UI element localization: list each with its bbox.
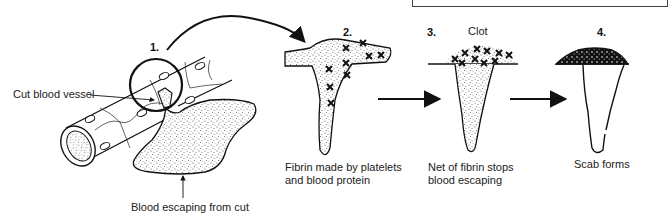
step-number-1: 1. xyxy=(150,41,159,53)
caption-step2-line1: Fibrin made by platelets xyxy=(285,161,402,174)
label-cut-blood-vessel: Cut blood vessel xyxy=(13,88,94,101)
label-blood-escaping: Blood escaping from cut xyxy=(131,201,249,214)
step-number-3: 3. xyxy=(427,26,436,38)
caption-step3-line1: Net of fibrin stops xyxy=(428,161,514,174)
zoom-arrow xyxy=(167,16,303,50)
caption-step3-line2: blood escaping xyxy=(428,174,502,187)
caption-step4: Scab forms xyxy=(574,158,630,171)
step3-clot xyxy=(428,46,518,152)
label-clot: Clot xyxy=(468,25,488,38)
step-number-4: 4. xyxy=(597,26,606,38)
caption-step2-line2: and blood protein xyxy=(285,174,370,187)
step2-wound xyxy=(285,39,391,155)
step-number-2: 2. xyxy=(343,26,352,38)
step4-scab xyxy=(556,48,629,153)
